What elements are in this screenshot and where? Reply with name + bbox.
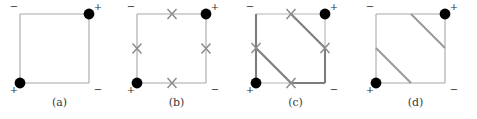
panel-d: − + + − (d) bbox=[356, 0, 475, 119]
sign-bottom-right: − bbox=[93, 85, 103, 95]
four-panel-figure: − + + − (a) bbox=[0, 0, 477, 119]
sign-bottom-right: − bbox=[449, 85, 459, 95]
sign-top-left: − bbox=[126, 2, 136, 12]
sign-bottom-right: − bbox=[210, 85, 220, 95]
sign-bottom-left: + bbox=[365, 85, 375, 95]
panel-b: − + + − (b) bbox=[117, 0, 236, 119]
panel-caption-d: (d) bbox=[356, 96, 475, 110]
sign-bottom-left: + bbox=[245, 85, 255, 95]
sign-top-left: − bbox=[365, 2, 375, 12]
sign-bottom-left: + bbox=[9, 85, 19, 95]
sign-top-right: + bbox=[210, 2, 220, 12]
square-outline-b bbox=[137, 14, 206, 83]
sign-top-right: + bbox=[93, 2, 103, 12]
sign-top-right: + bbox=[449, 2, 459, 12]
square-outline-d bbox=[376, 14, 445, 83]
sign-bottom-right: − bbox=[329, 85, 339, 95]
sign-top-left: − bbox=[9, 2, 19, 12]
sign-top-right: + bbox=[329, 2, 339, 12]
sign-top-left: − bbox=[245, 2, 255, 12]
diagonal-left-to-bottom bbox=[376, 48, 411, 83]
square-outline-c bbox=[256, 14, 325, 83]
diagonal-top-to-right bbox=[411, 14, 445, 48]
panel-caption-c: (c) bbox=[236, 96, 355, 110]
panel-c: − + + − (c) bbox=[236, 0, 355, 119]
dark-diagonal-left-to-bottom bbox=[256, 48, 291, 83]
diagonals-d bbox=[376, 14, 445, 83]
panel-caption-a: (a) bbox=[0, 96, 119, 110]
panel-a: − + + − (a) bbox=[0, 0, 119, 119]
x-marks-c bbox=[252, 9, 330, 88]
highlighted-path-c bbox=[256, 14, 325, 83]
square-outline-a bbox=[20, 14, 89, 83]
sign-bottom-left: + bbox=[126, 85, 136, 95]
dark-diagonal-top-to-right bbox=[291, 14, 325, 48]
panel-caption-b: (b) bbox=[117, 96, 236, 110]
x-marks-b bbox=[133, 9, 211, 88]
